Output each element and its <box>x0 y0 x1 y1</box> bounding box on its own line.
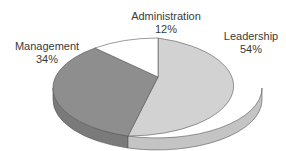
label-management-value: 34% <box>14 53 80 66</box>
label-administration-name: Administration <box>128 10 204 23</box>
label-leadership-name: Leadership <box>218 30 284 43</box>
label-administration-value: 12% <box>128 23 204 36</box>
label-administration: Administration 12% <box>128 10 204 36</box>
label-management-name: Management <box>14 40 80 53</box>
pie-chart: Administration 12% Management 34% Leader… <box>0 0 286 151</box>
label-leadership: Leadership 54% <box>218 30 284 56</box>
label-leadership-value: 54% <box>218 43 284 56</box>
label-management: Management 34% <box>14 40 80 66</box>
